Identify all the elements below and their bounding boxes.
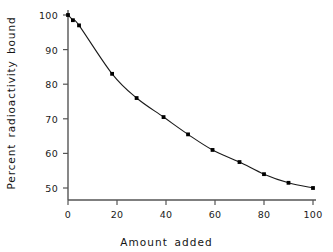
data-series-line	[68, 15, 313, 188]
data-point-marker	[162, 115, 166, 119]
data-point-marker	[135, 96, 139, 100]
y-tick-label: 70	[32, 113, 58, 124]
y-axis-ticks	[63, 15, 68, 188]
y-tick-label: 50	[32, 183, 58, 194]
y-tick-label: 100	[32, 10, 58, 21]
x-axis-ticks	[68, 200, 313, 205]
data-point-marker	[77, 23, 81, 27]
data-point-marker	[66, 13, 70, 17]
x-tick-label: 100	[303, 209, 322, 220]
data-point-marker	[287, 181, 291, 185]
data-point-marker	[186, 132, 190, 136]
x-tick-label: 80	[258, 209, 271, 220]
y-tick-label: 60	[32, 148, 58, 159]
x-tick-label: 60	[209, 209, 222, 220]
data-point-marker	[262, 172, 266, 176]
data-point-marker	[71, 18, 75, 22]
data-point-marker	[311, 186, 315, 190]
axis-lines	[68, 10, 316, 200]
data-point-marker	[110, 72, 114, 76]
x-tick-label: 0	[65, 209, 71, 220]
data-point-marker	[238, 160, 242, 164]
chart-figure: 5060708090100 020406080100 Percent radio…	[0, 0, 333, 252]
x-axis-label: Amount added	[0, 236, 333, 248]
x-tick-label: 20	[111, 209, 124, 220]
y-axis-label-container: Percent radioactivity bound	[2, 0, 18, 205]
y-tick-label: 80	[32, 79, 58, 90]
y-axis-label: Percent radioactivity bound	[4, 16, 16, 189]
y-tick-label: 90	[32, 44, 58, 55]
x-tick-label: 40	[160, 209, 173, 220]
data-point-marker	[211, 148, 215, 152]
data-series-markers	[66, 13, 315, 190]
